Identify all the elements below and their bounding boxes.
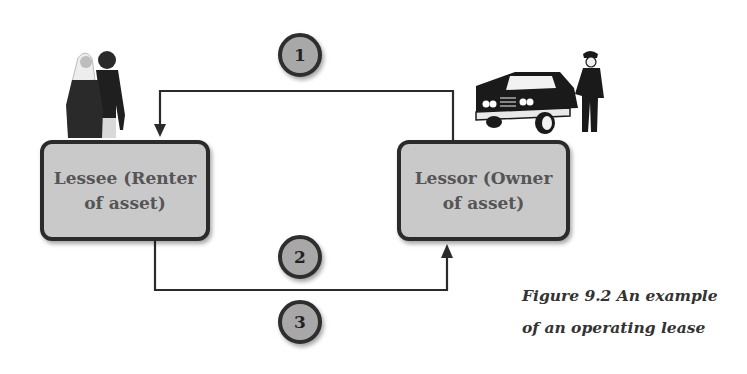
lessee-label-line2: of asset) [54,191,196,216]
lessor-label-line2: of asset) [415,191,553,216]
step-1-badge: 1 [278,33,322,77]
lessor-box: Lessor (Owner of asset) [397,140,570,241]
figure-caption: Figure 9.2 An example of an operating le… [522,280,747,344]
lessor-label-line1: Lessor (Owner [415,166,553,191]
caption-line2: of an operating lease [522,312,747,344]
step-2-badge: 2 [278,235,322,279]
caption-line1: Figure 9.2 An example [522,280,747,312]
operating-lease-diagram: Lessee (Renter of asset) Lessor (Owner o… [0,0,747,374]
arrowhead-up-icon [441,244,453,258]
lessee-label-line1: Lessee (Renter [54,166,196,191]
couple-people-icon [66,51,125,138]
lessee-box: Lessee (Renter of asset) [40,140,210,241]
arrow-lessor-to-lessee [160,91,453,141]
car-with-chauffeur-icon [476,51,604,134]
step-3-badge: 3 [278,300,322,344]
arrowhead-down-icon [154,124,166,137]
